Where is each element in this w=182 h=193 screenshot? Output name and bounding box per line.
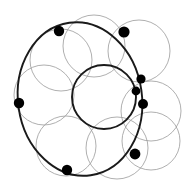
- node-top-left: [54, 26, 64, 36]
- figure-background: [0, 0, 182, 193]
- circle-packing-figure: [0, 0, 182, 193]
- node-right-upper: [136, 74, 145, 83]
- node-left: [14, 98, 24, 108]
- node-top-right: [118, 26, 129, 37]
- node-right-lower: [138, 99, 148, 109]
- node-bottom-left: [62, 165, 72, 175]
- node-right-middle: [132, 87, 141, 96]
- node-bottom-right: [130, 149, 141, 160]
- figure-container: [0, 0, 182, 193]
